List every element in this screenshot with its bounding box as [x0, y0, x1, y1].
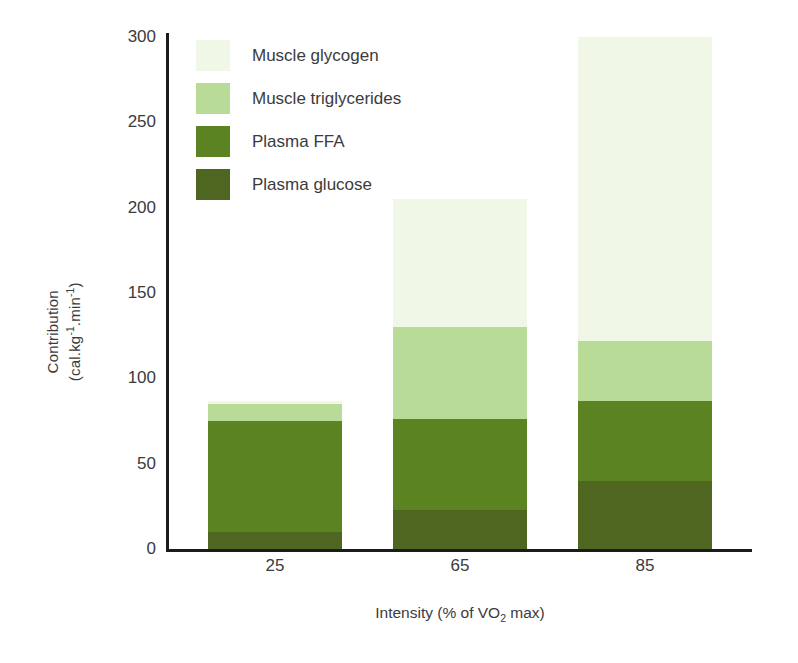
bar-segment[interactable] — [208, 532, 342, 549]
y-axis-tick-label: 50 — [96, 454, 156, 474]
bar-65[interactable] — [393, 199, 527, 549]
chart-legend: Muscle glycogenMuscle triglyceridesPlasm… — [196, 40, 401, 200]
legend-label: Muscle glycogen — [252, 46, 379, 66]
x-axis-title: Intensity (% of VO2 max) — [168, 604, 752, 622]
y-axis-title: Contribution (cal.kg-1.min-1) — [26, 0, 100, 663]
bar-85[interactable] — [578, 37, 712, 549]
bar-segment[interactable] — [393, 199, 527, 327]
y-axis-title-line2: (cal.kg-1.min-1) — [63, 282, 85, 381]
x-axis-line — [166, 549, 752, 552]
bar-segment[interactable] — [208, 404, 342, 421]
bar-segment[interactable] — [393, 510, 527, 549]
legend-item[interactable]: Plasma FFA — [196, 126, 401, 157]
y-axis-tick-label: 250 — [96, 112, 156, 132]
legend-item[interactable]: Muscle glycogen — [196, 40, 401, 71]
bar-segment[interactable] — [208, 421, 342, 532]
y-axis-tick-label: 150 — [96, 283, 156, 303]
legend-label: Plasma glucose — [252, 175, 372, 195]
bar-25[interactable] — [208, 401, 342, 549]
legend-swatch-icon — [196, 40, 230, 71]
x-axis-tick-label: 25 — [208, 556, 342, 576]
legend-item[interactable]: Muscle triglycerides — [196, 83, 401, 114]
legend-swatch-icon — [196, 169, 230, 200]
x-axis-tick-label: 65 — [393, 556, 527, 576]
y-axis-tick-label: 100 — [96, 368, 156, 388]
y-axis-title-line1: Contribution — [43, 290, 60, 373]
legend-item[interactable]: Plasma glucose — [196, 169, 401, 200]
bar-segment[interactable] — [393, 327, 527, 419]
legend-label: Plasma FFA — [252, 132, 345, 152]
legend-label: Muscle triglycerides — [252, 89, 401, 109]
bar-segment[interactable] — [578, 37, 712, 341]
bar-segment[interactable] — [393, 419, 527, 509]
bar-segment[interactable] — [578, 401, 712, 481]
bar-segment[interactable] — [578, 341, 712, 401]
y-axis-tick-label: 200 — [96, 198, 156, 218]
legend-swatch-icon — [196, 83, 230, 114]
y-axis-tick-label: 0 — [96, 539, 156, 559]
y-axis-tick-label: 300 — [96, 27, 156, 47]
x-axis-tick-label: 85 — [578, 556, 712, 576]
chart-figure: Contribution (cal.kg-1.min-1) 0501001502… — [0, 0, 798, 663]
bar-segment[interactable] — [578, 481, 712, 549]
legend-swatch-icon — [196, 126, 230, 157]
